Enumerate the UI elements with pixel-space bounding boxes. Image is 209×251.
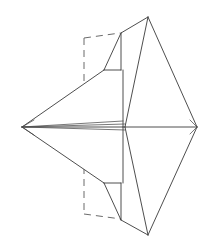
figure-container <box>0 0 209 251</box>
wireframe-diagram <box>0 0 209 251</box>
